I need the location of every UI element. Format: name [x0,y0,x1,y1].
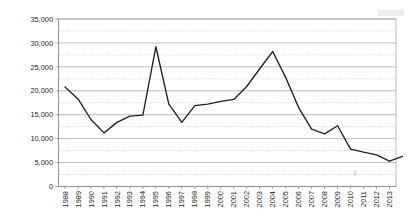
x-tick-label: 2007 [307,191,316,207]
x-tick-label: 1996 [164,191,173,207]
y-tick-label: 25,000 [30,63,53,72]
x-tick-label: 1990 [87,191,96,207]
y-tick-label: 15,000 [30,110,53,119]
x-tick-label: 1997 [177,191,186,207]
line-chart: 05,00010,00015,00020,00025,00030,00035,0… [0,0,416,223]
x-tick-label: 1993 [125,191,134,207]
x-tick-label: 1988 [61,191,70,207]
y-tick-label: 10,000 [30,134,53,143]
x-tick-label: 2011 [359,191,368,207]
chart-canvas: 05,00010,00015,00020,00025,00030,00035,0… [0,0,416,223]
x-tick-label: 2003 [255,191,264,207]
x-tick-label: 2009 [333,191,342,207]
y-tick-label: 20,000 [30,86,53,95]
x-tick-label: 1994 [138,191,147,207]
x-tick-label: 2010 [346,191,355,207]
x-tick-label: 1995 [151,191,160,207]
x-tick-label: 1991 [100,191,109,207]
x-tick-label: 2006 [294,191,303,207]
x-tick-label: 2001 [229,191,238,207]
x-tick-label: 2002 [242,191,251,207]
x-tick-label: 1998 [190,191,199,207]
x-tick-label: 1999 [203,191,212,207]
y-tick-label: 5,000 [35,158,54,167]
x-tick-label: 2005 [281,191,290,207]
x-tick-label: 2004 [268,191,277,207]
y-tick-label: 0 [49,182,53,191]
x-tick-label: 1992 [113,191,122,207]
x-tick-label: 2008 [320,191,329,207]
x-tick-label: 1989 [74,191,83,207]
x-tick-label: 2000 [216,191,225,207]
y-tick-label: 35,000 [30,15,53,24]
x-tick-label: 2012 [372,191,381,207]
x-tick-label: 2013 [385,191,394,207]
y-tick-label: 30,000 [30,39,53,48]
data-series-line [65,47,403,161]
